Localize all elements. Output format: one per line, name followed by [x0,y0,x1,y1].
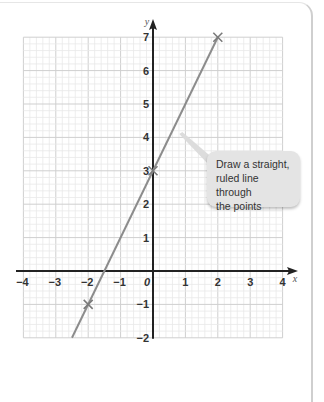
x-tick-label: 2 [215,276,221,288]
x-tick-label: 4 [280,276,287,288]
y-tick-label: 4 [143,131,150,143]
callout-line-2: ruled line through [216,171,294,199]
x-tick-label: 1 [182,276,188,288]
x-tick-label: 0 [144,276,151,288]
y-tick-label: 5 [143,98,149,110]
y-tick-label: 1 [143,232,149,244]
y-tick-label: 2 [143,198,149,210]
callout-line-3: the points [216,199,294,213]
x-axis-label: x [292,273,298,284]
callout-box: Draw a straight, ruled line through the … [207,151,300,207]
y-tick-label: −1 [136,298,149,310]
x-tick-label: −4 [16,276,29,288]
y-tick-label: −2 [136,332,149,344]
x-tick-label: −3 [49,276,62,288]
y-tick-label: 6 [143,65,149,77]
data-line [72,37,218,338]
x-tick-label: −1 [113,276,126,288]
y-axis-label: y [144,16,150,27]
callout-line-1: Draw a straight, [216,157,294,171]
x-tick-label: −2 [81,276,94,288]
y-tick-label: 7 [143,31,149,43]
y-tick-label: 3 [143,165,149,177]
x-tick-label: 3 [247,276,253,288]
